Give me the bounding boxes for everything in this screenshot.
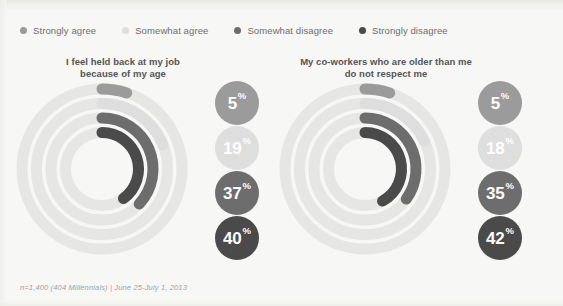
panel-body: 5% 18% 35% 42% [281,79,536,264]
legend-label: Strongly agree [33,25,96,36]
panel-title-line-1: My co-workers who are older than me [286,56,486,68]
chart-panel-held-back: I feel held back at my job because of my… [18,50,273,270]
value-bubble: 5% [478,81,522,125]
value-bubble: 35% [478,171,522,215]
legend-label: Somewhat disagree [247,25,333,36]
ring-value-arc [102,133,139,199]
chart-panel-not-respected: My co-workers who are older than me do n… [281,50,536,270]
ring-value-arc [365,133,402,201]
value-bubble: 5% [215,81,259,125]
value-bubble-percent-sign: % [505,226,513,236]
value-bubble-number: 42 [486,230,504,247]
value-bubble: 42% [478,216,522,260]
legend-label: Somewhat agree [135,25,208,36]
legend-item-strongly-agree[interactable]: Strongly agree [20,25,96,36]
value-bubble-number: 35 [486,185,504,202]
value-bubble-number: 5 [228,95,237,112]
value-bubble-percent-sign: % [242,181,250,191]
top-edge-band [0,0,563,9]
ring-value-arc [365,89,390,93]
value-bubble-percent-sign: % [505,136,513,146]
value-bubble-percent-sign: % [242,226,250,236]
value-bubble-number: 18 [486,140,504,157]
bottom-edge-band [0,300,563,306]
legend-swatch-icon [234,27,241,34]
radial-rings-svg [10,77,195,262]
value-bubble-percent-sign: % [242,136,250,146]
legend-label: Strongly disagree [372,25,448,36]
value-bubble-number: 40 [223,230,241,247]
value-bubble-column: 5% 18% 35% 42% [478,81,530,261]
value-bubble-percent-sign: % [238,91,246,101]
value-bubble-percent-sign: % [505,181,513,191]
value-bubble: 18% [478,126,522,170]
legend-item-somewhat-agree[interactable]: Somewhat agree [122,25,208,36]
panel-title-line-1: I feel held back at my job [23,56,223,68]
panel-title: My co-workers who are older than me do n… [286,56,486,79]
value-bubble: 40% [215,216,259,260]
panel-body: 5% 19% 37% 40% [18,79,273,264]
chart-legend: Strongly agree Somewhat agree Somewhat d… [20,22,543,38]
infographic-root: Strongly agree Somewhat agree Somewhat d… [0,0,563,306]
value-bubble: 37% [215,171,259,215]
radial-rings-chart [10,77,200,262]
value-bubble-column: 5% 19% 37% 40% [215,81,267,261]
radial-rings-svg [273,77,458,262]
legend-swatch-icon [122,27,129,34]
legend-item-strongly-disagree[interactable]: Strongly disagree [359,25,448,36]
value-bubble-number: 37 [223,185,241,202]
value-bubble-percent-sign: % [501,91,509,101]
panel-title: I feel held back at my job because of my… [23,56,223,79]
legend-swatch-icon [20,27,27,34]
ring-value-arc [102,89,127,93]
source-footnote: n=1,400 (404 Millennials) | June 25-July… [20,283,187,292]
chart-panels: I feel held back at my job because of my… [0,50,563,270]
value-bubble-number: 19 [223,140,241,157]
value-bubble-number: 5 [491,95,500,112]
value-bubble: 19% [215,126,259,170]
radial-rings-chart [273,77,463,262]
legend-swatch-icon [359,27,366,34]
legend-item-somewhat-disagree[interactable]: Somewhat disagree [234,25,333,36]
